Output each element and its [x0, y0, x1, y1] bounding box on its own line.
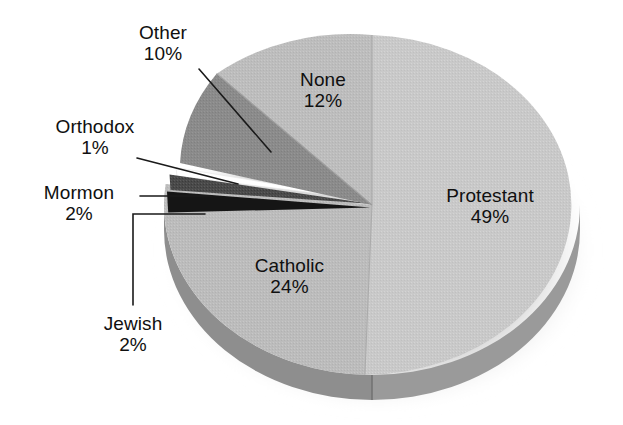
callout-label-mormon-value: 2% — [22, 203, 136, 224]
callout-label-orthodox: Orthodox 1% — [33, 116, 157, 159]
callout-label-other-name: Other — [115, 22, 211, 43]
pie-chart-figure: Protestant 49% Catholic 24% None 12% Oth… — [0, 0, 623, 425]
callout-label-mormon-name: Mormon — [22, 182, 136, 203]
callout-label-jewish-value: 2% — [84, 334, 182, 355]
callout-label-jewish-name: Jewish — [84, 313, 182, 334]
callout-label-orthodox-name: Orthodox — [33, 116, 157, 137]
slice-catholic — [164, 184, 372, 375]
callout-label-jewish: Jewish 2% — [84, 313, 182, 356]
callout-label-orthodox-value: 1% — [33, 137, 157, 158]
callout-label-other-value: 10% — [115, 43, 211, 64]
callout-label-mormon: Mormon 2% — [22, 182, 136, 225]
callout-label-other: Other 10% — [115, 22, 211, 65]
